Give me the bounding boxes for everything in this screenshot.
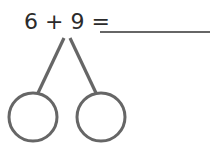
- number-bond-worksheet: 6 + 9 =: [0, 0, 222, 149]
- left-bond-line: [38, 38, 64, 93]
- right-bond-line: [70, 38, 96, 93]
- left-part-circle[interactable]: [9, 93, 57, 141]
- number-bond-diagram: [0, 0, 222, 149]
- right-part-circle[interactable]: [77, 93, 125, 141]
